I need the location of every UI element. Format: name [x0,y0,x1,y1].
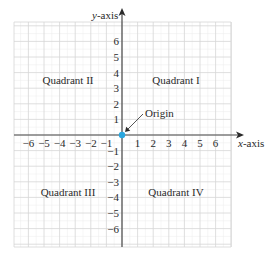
quadrant-2-label: Quadrant II [42,74,93,86]
y-tick-label: −5 [107,207,119,219]
x-tick-label: −3 [69,137,81,149]
y-axis-label: y-axis [91,9,118,21]
quadrant-3-label: Quadrant III [41,186,96,198]
y-tick-label: 5 [114,51,120,63]
origin-label: Origin [145,107,174,119]
y-tick-label: −2 [107,160,119,172]
x-tick-label: 5 [197,137,203,149]
y-tick-label: −3 [107,176,119,188]
coordinate-plane-diagram: x-axis y-axis −6−5−4−3−2−1123456 654321−… [0,0,274,259]
x-tick-label: 3 [166,137,172,149]
y-tick-label: 4 [114,67,120,79]
x-tick-label: −6 [23,137,35,149]
y-tick-label: 1 [114,113,120,125]
x-tick-label: −2 [85,137,97,149]
x-tick-label: 1 [135,137,141,149]
x-tick-label: 4 [182,137,188,149]
quadrant-1-label: Quadrant I [152,74,200,86]
y-tick-label: 2 [114,98,120,110]
x-axis-label: x-axis [237,137,264,149]
y-tick-label: −4 [107,191,119,203]
origin-point [119,132,125,138]
y-tick-label: 3 [114,82,120,94]
x-tick-label: 2 [150,137,156,149]
x-tick-label: −5 [38,137,50,149]
y-tick-label: −1 [107,145,119,157]
x-tick-label: 6 [213,137,219,149]
x-tick-label: −4 [54,137,66,149]
quadrant-4-label: Quadrant IV [148,186,203,198]
y-axis [119,8,126,247]
y-tick-label: 6 [114,35,120,47]
y-tick-label: −6 [107,223,119,235]
